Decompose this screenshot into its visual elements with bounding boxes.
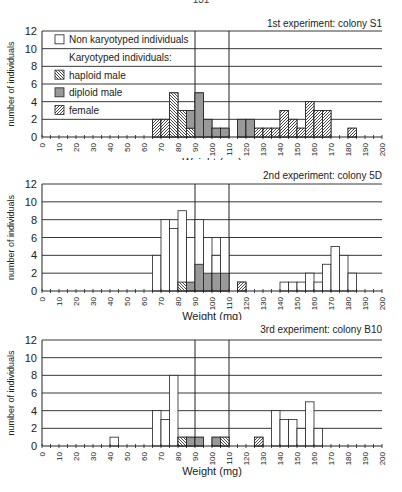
svg-text:50: 50: [123, 296, 132, 305]
svg-text:120: 120: [242, 451, 251, 465]
svg-text:4: 4: [31, 249, 37, 261]
svg-text:90: 90: [191, 142, 200, 151]
svg-text:6: 6: [31, 232, 37, 244]
svg-text:140: 140: [276, 142, 285, 156]
svg-text:100: 100: [208, 296, 217, 310]
chart-panel-1: 0246810120102030405060708090100110120130…: [0, 0, 402, 160]
svg-text:40: 40: [106, 142, 115, 151]
svg-text:110: 110: [225, 142, 234, 155]
chart-panel-3: 0246810120102030405060708090100110120130…: [0, 320, 402, 480]
svg-text:30: 30: [89, 296, 98, 305]
svg-text:10: 10: [25, 196, 37, 208]
svg-text:10: 10: [25, 352, 37, 364]
svg-text:70: 70: [157, 451, 166, 460]
svg-text:2: 2: [31, 422, 37, 434]
histogram-experiment-2: 0246810120102030405060708090100110120130…: [0, 160, 402, 320]
svg-text:20: 20: [72, 142, 81, 151]
svg-text:170: 170: [327, 451, 336, 465]
svg-text:110: 110: [225, 296, 234, 309]
svg-text:1st experiment: colony S1: 1st experiment: colony S1: [267, 18, 382, 29]
svg-text:female: female: [69, 105, 99, 116]
svg-text:40: 40: [106, 451, 115, 460]
svg-text:130: 130: [259, 451, 268, 465]
svg-text:haploid male: haploid male: [69, 70, 126, 81]
svg-text:110: 110: [225, 451, 234, 464]
svg-text:70: 70: [157, 142, 166, 151]
svg-text:0: 0: [38, 296, 47, 301]
svg-text:160: 160: [310, 296, 319, 310]
svg-text:100: 100: [208, 142, 217, 156]
svg-text:8: 8: [31, 369, 37, 381]
svg-text:90: 90: [191, 296, 200, 305]
svg-text:Non karyotyped individuals: Non karyotyped individuals: [69, 34, 189, 45]
svg-text:90: 90: [191, 451, 200, 460]
svg-text:130: 130: [259, 142, 268, 156]
svg-text:190: 190: [361, 296, 370, 310]
svg-text:120: 120: [242, 142, 251, 156]
svg-text:120: 120: [242, 296, 251, 310]
svg-text:Karyotyped individuals:: Karyotyped individuals:: [69, 52, 172, 63]
svg-text:20: 20: [72, 451, 81, 460]
svg-text:2: 2: [31, 113, 37, 125]
svg-text:6: 6: [31, 387, 37, 399]
svg-text:180: 180: [344, 142, 353, 156]
svg-text:200: 200: [378, 451, 387, 465]
svg-text:0: 0: [31, 285, 37, 297]
svg-text:70: 70: [157, 296, 166, 305]
svg-text:10: 10: [55, 296, 64, 305]
svg-text:20: 20: [72, 296, 81, 305]
chart-panel-2: 0246810120102030405060708090100110120130…: [0, 160, 402, 320]
svg-text:130: 130: [259, 296, 268, 310]
svg-text:60: 60: [140, 296, 149, 305]
svg-text:140: 140: [276, 451, 285, 465]
svg-text:180: 180: [344, 451, 353, 465]
svg-text:4: 4: [31, 96, 37, 108]
svg-text:10: 10: [55, 142, 64, 151]
svg-text:0: 0: [38, 142, 47, 147]
svg-text:40: 40: [106, 296, 115, 305]
svg-text:4: 4: [31, 405, 37, 417]
svg-text:190: 190: [361, 142, 370, 156]
svg-text:100: 100: [208, 451, 217, 465]
svg-text:number of individuals: number of individuals: [6, 350, 16, 436]
svg-text:30: 30: [89, 451, 98, 460]
svg-text:160: 160: [310, 142, 319, 156]
svg-text:6: 6: [31, 78, 37, 90]
svg-text:0: 0: [38, 451, 47, 456]
svg-text:10: 10: [25, 43, 37, 55]
svg-text:number of individuals: number of individuals: [6, 41, 16, 127]
svg-text:12: 12: [25, 25, 37, 37]
svg-text:160: 160: [310, 451, 319, 465]
svg-text:170: 170: [327, 296, 336, 310]
svg-text:number of individuals: number of individuals: [6, 194, 16, 280]
svg-text:150: 150: [293, 451, 302, 465]
svg-text:0: 0: [31, 131, 37, 143]
histogram-experiment-1: 0246810120102030405060708090100110120130…: [0, 0, 402, 160]
svg-text:170: 170: [327, 142, 336, 156]
svg-text:30: 30: [89, 142, 98, 151]
svg-text:80: 80: [174, 296, 183, 305]
svg-text:12: 12: [25, 178, 37, 190]
svg-text:180: 180: [344, 296, 353, 310]
svg-text:0: 0: [31, 440, 37, 452]
histogram-experiment-3: 0246810120102030405060708090100110120130…: [0, 320, 402, 492]
svg-text:50: 50: [123, 451, 132, 460]
svg-text:2: 2: [31, 267, 37, 279]
svg-text:150: 150: [293, 142, 302, 156]
svg-text:200: 200: [378, 142, 387, 156]
svg-text:190: 190: [361, 451, 370, 465]
svg-text:80: 80: [174, 142, 183, 151]
svg-text:80: 80: [174, 451, 183, 460]
svg-text:Weight (mg): Weight (mg): [182, 310, 242, 320]
svg-text:3rd experiment: colony B10: 3rd experiment: colony B10: [260, 324, 382, 335]
svg-text:60: 60: [140, 451, 149, 460]
svg-text:200: 200: [378, 296, 387, 310]
svg-text:8: 8: [31, 60, 37, 72]
svg-text:140: 140: [276, 296, 285, 310]
svg-text:150: 150: [293, 296, 302, 310]
svg-text:2nd experiment: colony 5D: 2nd experiment: colony 5D: [263, 170, 382, 181]
svg-text:10: 10: [55, 451, 64, 460]
svg-text:50: 50: [123, 142, 132, 151]
svg-text:12: 12: [25, 334, 37, 346]
svg-text:diploid male: diploid male: [69, 87, 123, 98]
